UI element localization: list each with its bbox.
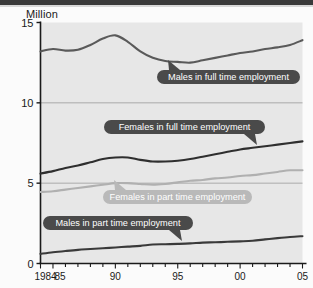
callout-label: Females in full time employment bbox=[119, 122, 251, 132]
y-tick-label-0: 0 bbox=[27, 258, 33, 270]
x-tick-label-90: 90 bbox=[110, 271, 122, 282]
y-tick-label-5: 5 bbox=[27, 177, 33, 189]
callout-label: Males in part time employment bbox=[55, 218, 181, 228]
y-tick-label-10: 10 bbox=[21, 97, 33, 109]
x-tick-label-00: 00 bbox=[235, 271, 247, 282]
x-tick-label-05: 05 bbox=[297, 271, 309, 282]
y-tick-label-15: 15 bbox=[21, 17, 33, 29]
employment-line-chart: 05101519848590950005Males in full time e… bbox=[0, 0, 313, 288]
chart-canvas: 05101519848590950005Males in full time e… bbox=[0, 0, 313, 288]
x-tick-label-95: 95 bbox=[172, 271, 184, 282]
callout-label: Females in part time employment bbox=[110, 192, 246, 202]
callout-label: Males in full time employment bbox=[168, 72, 289, 82]
x-tick-label-85: 85 bbox=[54, 271, 66, 282]
